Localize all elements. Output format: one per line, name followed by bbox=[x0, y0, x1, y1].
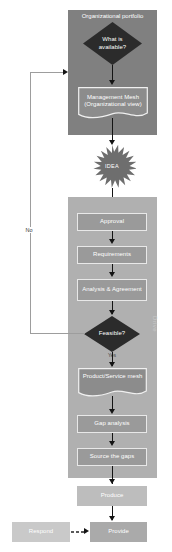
node-respond: Respond bbox=[12, 522, 70, 542]
node-analysis-agreement: Analysis & Agreement bbox=[77, 279, 147, 301]
arrowhead-gap-to-source bbox=[109, 441, 115, 446]
node-feasible-label: Feasible? bbox=[90, 330, 134, 337]
node-feasible: Feasible? bbox=[84, 316, 140, 352]
arrowhead-approval-to-requirements bbox=[109, 239, 115, 244]
feedback-loop-horizontal-bottom bbox=[30, 333, 85, 334]
node-gap-analysis: Gap analysis bbox=[77, 415, 147, 433]
node-provide: Provide bbox=[90, 522, 147, 542]
node-requirements: Requirements bbox=[77, 246, 147, 264]
node-management-mesh: Management Mesh (Organizational view) bbox=[78, 87, 148, 120]
node-source-the-gaps-label: Source the gaps bbox=[90, 453, 134, 460]
arrowhead-available-to-mesh bbox=[109, 80, 115, 85]
arrowhead-requirements-to-analysis bbox=[109, 272, 115, 277]
node-what-is-available: What is available? bbox=[83, 22, 142, 65]
node-product-service-mesh: Product/Service mesh bbox=[78, 368, 147, 398]
node-approval-label: Approval bbox=[100, 218, 124, 225]
arrowhead-feasible-to-product-mesh bbox=[109, 362, 115, 367]
arrowhead-respond-to-provide bbox=[84, 528, 89, 534]
arrowhead-produce-to-provide bbox=[109, 516, 115, 521]
node-respond-label: Respond bbox=[29, 528, 53, 535]
node-idea: IDEA bbox=[88, 143, 136, 191]
node-source-the-gaps: Source the gaps bbox=[77, 448, 147, 466]
node-provide-label: Provide bbox=[108, 528, 129, 535]
arrowhead-analysis-to-feasible bbox=[109, 310, 115, 315]
node-produce: Produce bbox=[77, 486, 147, 506]
arrowhead-product-mesh-to-gap bbox=[109, 409, 115, 414]
panel-organizational-portfolio-title: Organizational portfolio bbox=[68, 12, 157, 20]
feedback-loop-vertical bbox=[30, 72, 31, 334]
node-requirements-label: Requirements bbox=[93, 251, 131, 258]
feedback-loop-horizontal-top bbox=[30, 72, 66, 73]
connector-available-to-mesh bbox=[112, 65, 113, 81]
node-approval: Approval bbox=[77, 213, 147, 231]
panel-drive-title: Drive bbox=[146, 304, 158, 344]
edge-label-no: No bbox=[22, 227, 36, 233]
node-produce-label: Produce bbox=[101, 492, 124, 499]
connector-respond-to-provide bbox=[71, 531, 85, 533]
arrowhead-source-to-produce bbox=[109, 479, 115, 484]
node-product-service-mesh-label: Product/Service mesh bbox=[78, 373, 147, 380]
arrowhead-feedback-loop bbox=[63, 69, 68, 75]
node-what-is-available-label: What is available? bbox=[92, 36, 134, 51]
node-management-mesh-label: Management Mesh (Organizational view) bbox=[78, 94, 148, 109]
flowchart-diagram: Organizational portfolio What is availab… bbox=[0, 0, 172, 552]
node-idea-label: IDEA bbox=[88, 163, 136, 170]
node-analysis-agreement-label: Analysis & Agreement bbox=[82, 286, 142, 293]
node-gap-analysis-label: Gap analysis bbox=[94, 420, 129, 427]
